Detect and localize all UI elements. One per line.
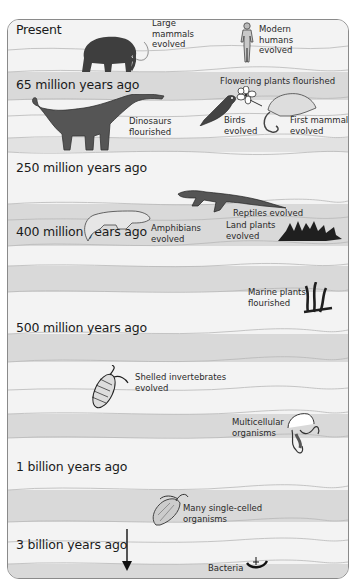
seaweed-icon: [300, 282, 334, 314]
caption-single-celled: Many single-celled organisms: [183, 503, 262, 524]
amphibian-icon: [80, 207, 152, 243]
caption-amphibians: Amphibians evolved: [151, 223, 201, 244]
trilobite-icon: [86, 365, 130, 413]
caption-reptiles: Reptiles evolved: [233, 208, 303, 219]
human-icon: [238, 22, 256, 64]
timeline-frame: Present 65 million years ago 250 million…: [7, 19, 349, 579]
caption-birds: Birds evolved: [224, 115, 257, 136]
caption-shelled-invertebrates: Shelled invertebrates evolved: [135, 372, 226, 393]
era-label-65-million: 65 million years ago: [16, 77, 139, 92]
arrow-down-icon: [122, 529, 132, 571]
caption-first-mammals: First mammals evolved: [290, 115, 349, 136]
caption-multicellular: Multicellular organisms: [232, 417, 284, 438]
caption-dinosaurs: Dinosaurs flourished: [129, 116, 171, 137]
era-label-present: Present: [16, 22, 62, 37]
era-label-1-billion: 1 billion years ago: [16, 459, 127, 474]
era-label-3-billion: 3 billion years ago: [16, 537, 127, 552]
caption-land-plants: Land plants evolved: [226, 220, 276, 241]
caption-bacteria: Bacteria: [208, 563, 243, 574]
caption-flowering-plants: Flowering plants flourished: [220, 76, 335, 87]
jellyfish-icon: [284, 412, 324, 458]
era-label-500-million: 500 million years ago: [16, 320, 147, 335]
caption-large-mammals: Large mammals evolved: [152, 19, 194, 50]
caption-modern-humans: Modern humans evolved: [259, 24, 293, 56]
bacteria-icon: [245, 555, 269, 571]
mammoth-icon: [76, 32, 156, 76]
era-label-250-million: 250 million years ago: [16, 160, 147, 175]
caption-marine-plants: Marine plants flourished: [248, 287, 306, 308]
land-plant-icon: [276, 219, 342, 243]
